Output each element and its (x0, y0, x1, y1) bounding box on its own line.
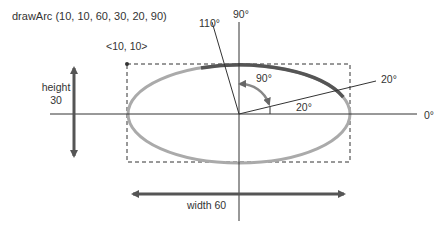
origin-dot (125, 62, 129, 66)
ray-110 (212, 22, 239, 114)
ray-20-label: 20° (381, 74, 397, 85)
axis-90-label: 90° (233, 9, 249, 20)
axis-0-label: 0° (424, 110, 434, 121)
sweep-90-label: 90° (256, 73, 272, 84)
height-label: height 30 (38, 82, 74, 105)
drawarc-diagram (0, 0, 441, 230)
sweep-arrow-90 (240, 84, 269, 104)
height-value: 30 (38, 95, 74, 106)
drawn-arc (201, 65, 343, 97)
angle-20-label: 20° (296, 102, 312, 113)
width-label: width 60 (187, 200, 226, 211)
diagram-title: drawArc (10, 10, 60, 30, 20, 90) (12, 11, 167, 22)
origin-label: <10, 10> (106, 41, 147, 52)
ray-110-label: 110° (199, 18, 220, 29)
height-word: height (38, 82, 74, 93)
